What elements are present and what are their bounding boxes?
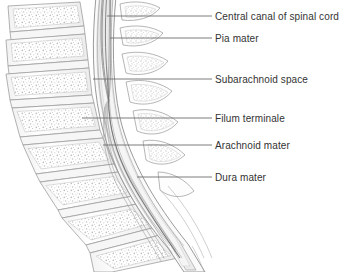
callout-label-arachnoid-mater: Arachnoid mater bbox=[215, 140, 290, 151]
spinal-anatomy-illustration bbox=[0, 0, 346, 272]
callout-label-subarachnoid-space: Subarachnoid space bbox=[215, 74, 308, 85]
callout-label-central-canal: Central canal of spinal cord bbox=[215, 11, 339, 22]
callout-label-pia-mater: Pia mater bbox=[215, 33, 259, 44]
callout-label-filum-terminale: Filum terminale bbox=[215, 113, 285, 124]
spinal-anatomy-figure: Central canal of spinal cord Pia mater S… bbox=[0, 0, 346, 272]
callout-label-dura-mater: Dura mater bbox=[215, 172, 266, 183]
vertebra-body bbox=[6, 68, 92, 100]
